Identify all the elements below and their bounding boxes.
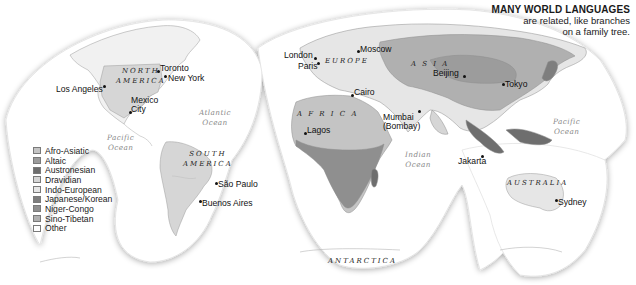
ocean-label-line: Ocean bbox=[107, 143, 134, 153]
legend: Afro-Asiatic Altaic Austronesian Dravidi… bbox=[33, 146, 112, 233]
city-label-tokyo: Tokyo bbox=[505, 80, 527, 89]
ocean-label-line: Ocean bbox=[405, 160, 431, 170]
city-label-new-york: New York bbox=[168, 74, 204, 83]
legend-label: Japanese/Korean bbox=[45, 194, 112, 204]
map-title: MANY WORLD LANGUAGES bbox=[492, 4, 630, 15]
continent-label-australia: AUSTRALIA bbox=[507, 178, 568, 188]
legend-swatch bbox=[33, 157, 41, 164]
legend-label: Altaic bbox=[45, 156, 66, 166]
legend-item-altaic: Altaic bbox=[33, 156, 112, 166]
legend-swatch bbox=[33, 196, 41, 203]
city-dot-beijing bbox=[463, 75, 466, 78]
legend-item-japanese-korean: Japanese/Korean bbox=[33, 194, 112, 204]
ocean-label-line: Pacific bbox=[553, 117, 580, 127]
city-label-mexico-city: Mexico City bbox=[131, 96, 158, 114]
ocean-label-line: Ocean bbox=[553, 127, 580, 137]
legend-swatch bbox=[33, 147, 41, 154]
city-label-sao-paulo: São Paulo bbox=[218, 180, 258, 189]
legend-item-afro-asiatic: Afro-Asiatic bbox=[33, 146, 112, 156]
legend-label: Indo-European bbox=[45, 185, 102, 195]
ocean-label-pacific-west: Pacific Ocean bbox=[107, 133, 134, 153]
city-label-jakarta: Jakarta bbox=[458, 157, 486, 166]
continent-label-north-america: NORTH AMERICA bbox=[116, 66, 166, 86]
legend-item-indo-european: Indo-European bbox=[33, 185, 112, 195]
city-dot-new-york bbox=[164, 75, 167, 78]
city-label-paris: Paris bbox=[298, 62, 318, 71]
city-label-lagos: Lagos bbox=[307, 126, 330, 135]
ocean-label-pacific-east: Pacific Ocean bbox=[553, 117, 580, 137]
legend-label: Afro-Asiatic bbox=[45, 146, 89, 156]
legend-item-dravidian: Dravidian bbox=[33, 175, 112, 185]
city-label-sydney: Sydney bbox=[558, 198, 587, 207]
legend-swatch bbox=[33, 215, 41, 222]
city-label-cairo: Cairo bbox=[354, 88, 375, 97]
city-label-mumbai: Mumbai (Bombay) bbox=[383, 113, 420, 131]
legend-label: Sino-Tibetan bbox=[45, 214, 93, 224]
continent-label-south-america: SOUTH AMERICA bbox=[183, 149, 233, 169]
city-label-los-angeles: Los Angeles bbox=[56, 85, 103, 94]
legend-swatch bbox=[33, 225, 41, 232]
city-dot-los-angeles bbox=[103, 85, 106, 88]
legend-swatch bbox=[33, 186, 41, 193]
legend-swatch bbox=[33, 167, 41, 174]
ocean-label-atlantic: Atlantic Ocean bbox=[199, 108, 231, 128]
city-label-line: City bbox=[131, 105, 158, 114]
legend-label: Niger-Congo bbox=[45, 204, 94, 214]
city-dot-london bbox=[314, 57, 317, 60]
city-label-buenos-aires: Buenos Aires bbox=[202, 199, 253, 208]
ocean-label-line: Pacific bbox=[107, 133, 134, 143]
continent-label-europe: EUROPE bbox=[325, 56, 369, 66]
legend-label: Austronesian bbox=[45, 165, 95, 175]
ocean-label-line: Atlantic bbox=[199, 108, 231, 118]
legend-label: Other bbox=[45, 223, 67, 233]
legend-label: Dravidian bbox=[45, 175, 81, 185]
legend-item-niger-congo: Niger-Congo bbox=[33, 204, 112, 214]
map-subtitle-line1: are related, like branches bbox=[492, 15, 630, 26]
legend-swatch bbox=[33, 205, 41, 212]
legend-swatch bbox=[33, 176, 41, 183]
continent-label-line: SOUTH bbox=[183, 149, 233, 159]
continent-label-africa: A F R I C A bbox=[297, 109, 358, 119]
map-subtitle-line2: on a family tree. bbox=[492, 26, 630, 37]
continent-label-line: AMERICA bbox=[116, 76, 166, 86]
ocean-label-line: Indian bbox=[405, 150, 431, 160]
city-label-london: London bbox=[284, 51, 313, 60]
continent-label-line: AMERICA bbox=[183, 159, 233, 169]
map-title-block: MANY WORLD LANGUAGES are related, like b… bbox=[492, 4, 630, 37]
continent-label-antarctica: ANTARCTICA bbox=[328, 256, 397, 266]
legend-item-other: Other bbox=[33, 224, 112, 234]
city-label-beijing: Beijing bbox=[433, 69, 459, 78]
world-map bbox=[0, 0, 636, 285]
ocean-label-line: Ocean bbox=[199, 118, 231, 128]
city-label-line: (Bombay) bbox=[383, 122, 420, 131]
city-label-moscow: Moscow bbox=[360, 45, 392, 54]
city-label-toronto: Toronto bbox=[160, 64, 189, 73]
legend-item-austronesian: Austronesian bbox=[33, 165, 112, 175]
ocean-label-indian: Indian Ocean bbox=[405, 150, 431, 170]
legend-item-sino-tibetan: Sino-Tibetan bbox=[33, 214, 112, 224]
